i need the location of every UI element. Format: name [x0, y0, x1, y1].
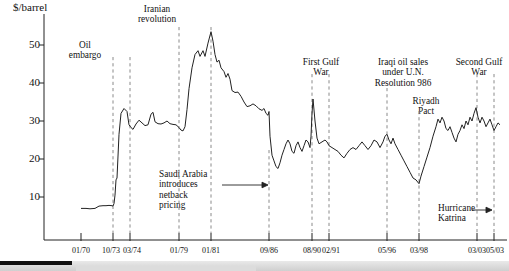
saudi-netback-arrow-head	[262, 182, 268, 188]
chart-plot-area	[0, 0, 509, 271]
katrina-arrow-head	[486, 207, 492, 213]
bottom-scrollbar[interactable]	[0, 261, 509, 271]
y-axis-ticks	[39, 45, 44, 197]
event-marker-lines	[113, 27, 494, 238]
scrollbar-secondary-track	[76, 266, 256, 271]
price-series-line	[81, 32, 500, 209]
scrollbar-thumb[interactable]	[0, 261, 72, 265]
annotation-arrows	[222, 182, 492, 213]
chart-figure: $/barrel 50 40 30 20 10 01/70 10/73 03/7…	[0, 0, 509, 271]
